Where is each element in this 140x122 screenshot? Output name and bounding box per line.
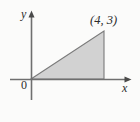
x-axis-label: x xyxy=(122,82,127,94)
vertex-point-label: (4, 3) xyxy=(90,14,117,27)
origin-label: 0 xyxy=(21,79,27,91)
y-axis-arrowhead xyxy=(29,11,35,18)
shaded-right-triangle xyxy=(31,31,104,79)
coordinate-figure: y x 0 (4, 3) xyxy=(0,0,140,122)
y-axis-label: y xyxy=(21,8,26,20)
